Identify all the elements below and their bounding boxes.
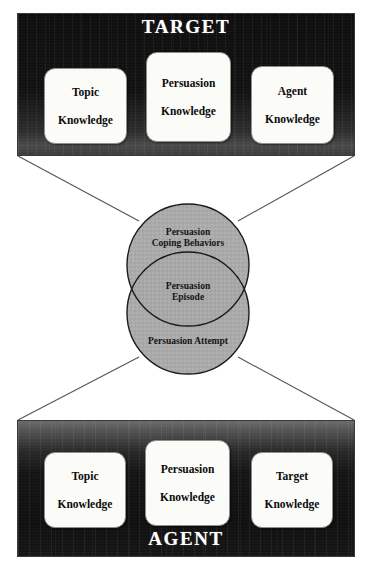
target-topic-knowledge-line1: Topic <box>55 85 116 99</box>
target-persuasion-knowledge-line1: Persuasion <box>158 76 219 90</box>
target-persuasion-knowledge-box[interactable]: Persuasion Knowledge <box>146 52 231 142</box>
venn-diagram <box>118 203 258 375</box>
target-topic-knowledge-line2: Knowledge <box>55 113 116 127</box>
agent-topic-knowledge-box[interactable]: Topic Knowledge <box>44 452 126 528</box>
agent-target-knowledge-line1: Target <box>262 469 323 483</box>
target-agent-knowledge-line2: Knowledge <box>262 112 323 126</box>
target-agent-knowledge-line1: Agent <box>262 84 323 98</box>
agent-persuasion-knowledge-box[interactable]: Persuasion Knowledge <box>145 440 230 526</box>
diagram-canvas: TARGET Topic Knowledge Persuasion Knowle… <box>0 0 372 583</box>
agent-persuasion-knowledge-line2: Knowledge <box>157 490 218 504</box>
agent-topic-knowledge-line1: Topic <box>55 469 116 483</box>
target-topic-knowledge-label: Topic Knowledge <box>52 85 119 127</box>
agent-topic-knowledge-line2: Knowledge <box>55 497 116 511</box>
target-topic-knowledge-box[interactable]: Topic Knowledge <box>44 68 127 144</box>
target-persuasion-knowledge-label: Persuasion Knowledge <box>155 76 222 118</box>
agent-target-knowledge-line2: Knowledge <box>262 497 323 511</box>
target-panel-title: TARGET <box>17 16 355 38</box>
agent-persuasion-knowledge-label: Persuasion Knowledge <box>154 462 221 504</box>
target-persuasion-knowledge-line2: Knowledge <box>158 104 219 118</box>
target-agent-knowledge-box[interactable]: Agent Knowledge <box>251 66 334 144</box>
target-agent-knowledge-label: Agent Knowledge <box>259 84 326 126</box>
agent-persuasion-knowledge-line1: Persuasion <box>157 462 218 476</box>
agent-target-knowledge-box[interactable]: Target Knowledge <box>251 452 333 528</box>
agent-target-knowledge-label: Target Knowledge <box>259 469 326 511</box>
agent-panel-title: AGENT <box>17 528 355 550</box>
venn-circle-persuasion-coping-behaviors[interactable] <box>127 204 249 326</box>
agent-topic-knowledge-label: Topic Knowledge <box>52 469 119 511</box>
